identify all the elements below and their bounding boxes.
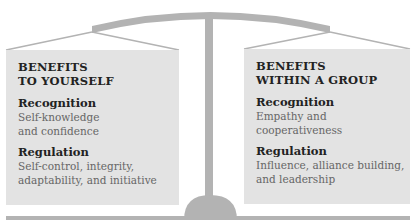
regulation-heading: Regulation xyxy=(256,144,410,158)
benefits-within-group-panel: BENEFITS WITHIN A GROUP Recognition Empa… xyxy=(244,49,410,204)
benefits-to-yourself-panel: BENEFITS TO YOURSELF Recognition Self-kn… xyxy=(6,50,179,205)
panel-title: BENEFITS TO YOURSELF xyxy=(18,60,179,88)
panel-title: BENEFITS WITHIN A GROUP xyxy=(256,59,410,87)
recognition-description: Self-knowledge and confidence xyxy=(18,110,179,138)
recognition-heading: Recognition xyxy=(256,95,410,109)
regulation-heading: Regulation xyxy=(18,145,179,159)
scale-pole xyxy=(205,14,213,200)
ground-line xyxy=(6,216,410,220)
recognition-heading: Recognition xyxy=(18,96,179,110)
regulation-description: Self-control, integrity, adaptability, a… xyxy=(18,159,179,187)
recognition-description: Empathy and cooperativeness xyxy=(256,109,410,137)
regulation-description: Influence, alliance building, and leader… xyxy=(256,158,410,186)
